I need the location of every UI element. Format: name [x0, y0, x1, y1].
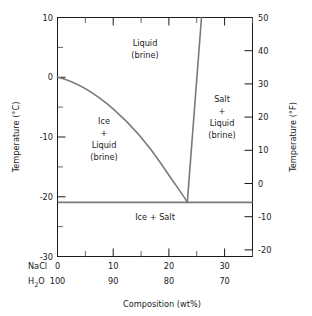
right-axis-ticks [245, 18, 253, 250]
right-tick-label-20: 20 [258, 112, 268, 122]
nacl-tick-label-10: 10 [108, 261, 118, 271]
nacl-axis-label: NaCl [28, 261, 47, 271]
right-tick-label-40: 40 [258, 46, 268, 56]
bottom-axis-title: Composition (wt%) [123, 299, 201, 309]
right-tick-label-neg20: -20 [258, 245, 271, 255]
region-ice-liquid-line-3: (brine) [90, 152, 117, 162]
phase-diagram-figure: 10 0 -10 -20 -30 Temperature (°C) 50 40 … [0, 0, 312, 316]
region-label-liquid-brine: Liquid (brine) [131, 38, 158, 60]
region-ice-liquid-line-1: + [101, 128, 108, 138]
region-label-ice-liquid-brine: Ice + Liquid (brine) [90, 116, 117, 162]
region-label-salt-liquid-brine: Salt + Liquid (brine) [208, 94, 235, 140]
salt-liquidus-line [187, 18, 201, 203]
region-ice-liquid-line-0: Ice [98, 116, 110, 126]
nacl-tick-label-30: 30 [219, 261, 229, 271]
nacl-tick-label-20: 20 [164, 261, 174, 271]
left-axis-tick-labels: 10 0 -10 -20 -30 [40, 13, 53, 262]
left-tick-label-0: 0 [48, 72, 53, 82]
nacl-tick-label-0: 0 [55, 261, 60, 271]
left-tick-label-neg20: -20 [40, 192, 53, 202]
h2o-axis-label: H 2 O [28, 276, 45, 288]
h2o-label-o: O [38, 276, 44, 286]
left-tick-label-neg30: -30 [40, 252, 53, 262]
region-liquid-brine-line-1: (brine) [131, 50, 158, 60]
h2o-tick-labels: 100 90 80 70 [50, 276, 230, 286]
h2o-tick-label-70: 70 [219, 276, 229, 286]
right-tick-label-30: 30 [258, 79, 268, 89]
h2o-tick-label-100: 100 [50, 276, 66, 286]
right-axis-tick-labels: 50 40 30 20 10 0 -10 -20 [258, 13, 271, 255]
region-salt-liquid-line-0: Salt [214, 94, 230, 104]
right-tick-label-10: 10 [258, 145, 268, 155]
region-salt-liquid-line-2: Liquid [210, 118, 235, 128]
region-label-ice-salt: Ice + Salt [135, 212, 176, 222]
h2o-tick-label-90: 90 [108, 276, 118, 286]
phase-diagram-svg: 10 0 -10 -20 -30 Temperature (°C) 50 40 … [0, 0, 312, 316]
right-axis-title: Temperature (°F) [288, 102, 298, 173]
h2o-label-h: H [28, 276, 34, 286]
region-salt-liquid-line-3: (brine) [208, 130, 235, 140]
region-salt-liquid-line-1: + [219, 106, 226, 116]
region-ice-salt-line-0: Ice + Salt [135, 212, 176, 222]
left-tick-label-neg10: -10 [40, 132, 53, 142]
ice-liquidus-curve [58, 77, 188, 202]
top-axis-ticks [85, 18, 252, 26]
h2o-tick-label-80: 80 [164, 276, 174, 286]
nacl-tick-labels: 0 10 20 30 [55, 261, 230, 271]
left-tick-label-10: 10 [43, 13, 53, 23]
right-tick-label-neg10: -10 [258, 212, 271, 222]
left-axis-title: Temperature (°C) [11, 102, 21, 174]
region-ice-liquid-line-2: Liquid [92, 140, 117, 150]
right-tick-label-50: 50 [258, 13, 268, 23]
right-tick-label-0: 0 [258, 179, 263, 189]
region-liquid-brine-line-0: Liquid [133, 38, 158, 48]
bottom-axis-ticks [85, 249, 252, 257]
left-axis-ticks [58, 18, 66, 257]
